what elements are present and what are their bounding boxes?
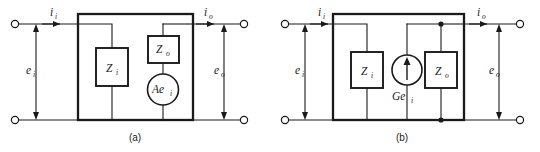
arrow-input-voltage-head-top: [33, 24, 39, 32]
arrow-input-current-head: [321, 21, 328, 27]
label-input-current: i: [50, 6, 53, 18]
label-input-current-sub: i: [55, 12, 57, 21]
junction-dot-top: [438, 21, 443, 26]
label-input-voltage-sub: i: [302, 70, 304, 79]
junction-dot-bottom: [438, 117, 443, 122]
wire-zi-top: [333, 24, 367, 52]
arrow-output-current-head: [480, 21, 487, 27]
label-output-current: i: [204, 6, 207, 18]
component-zi-label: Z: [361, 65, 368, 77]
arrow-output-voltage-head-bottom: [221, 112, 227, 120]
component-voltage-source-label: Ae: [151, 83, 164, 95]
label-output-voltage-sub: o: [496, 70, 500, 79]
panel-a: Z i Z o Ae i i i e i i o e o (a): [0, 0, 270, 152]
panel-b: Z i Z o Ge i i i e i i o e o (b): [270, 0, 540, 152]
component-voltage-source-sublabel: i: [170, 89, 172, 98]
arrow-output-voltage-head-top: [496, 24, 502, 32]
component-zi-sublabel: i: [116, 68, 118, 77]
label-output-current: i: [477, 6, 480, 18]
component-zi-sublabel: i: [371, 71, 373, 80]
arrow-input-voltage-head-top: [302, 24, 308, 32]
input-terminal-top: [11, 20, 18, 27]
label-output-voltage: e: [214, 64, 219, 76]
output-terminal-top: [516, 20, 523, 27]
circuit-figure: Z i Z o Ae i i i e i i o e o (a): [0, 0, 540, 152]
arrow-output-voltage-head-bottom: [496, 112, 502, 120]
label-input-current: i: [318, 6, 321, 18]
label-output-current-sub: o: [482, 12, 486, 21]
wire-zi-top: [78, 24, 112, 48]
component-current-source-label: Ge: [392, 90, 405, 102]
output-terminal-bottom: [240, 116, 247, 123]
arrow-output-voltage-head-top: [221, 24, 227, 32]
component-zo-box: [148, 36, 179, 63]
input-terminal-bottom: [281, 116, 288, 123]
label-output-voltage-sub: o: [221, 70, 225, 79]
input-terminal-top: [281, 20, 288, 27]
component-zo-label: Z: [435, 65, 442, 77]
label-output-current-sub: o: [209, 12, 213, 21]
output-terminal-top: [240, 20, 247, 27]
label-input-current-sub: i: [323, 12, 325, 21]
component-zi-label: Z: [106, 62, 113, 74]
component-zo-sublabel: o: [445, 71, 449, 80]
arrow-input-voltage-head-bottom: [33, 112, 39, 120]
arrow-output-current-head: [207, 21, 214, 27]
label-input-voltage: e: [295, 64, 300, 76]
panel-b-caption: (b): [396, 132, 408, 143]
component-zo-label: Z: [156, 43, 163, 55]
arrow-input-voltage-head-bottom: [302, 112, 308, 120]
label-output-voltage: e: [489, 64, 494, 76]
arrow-input-current-head: [53, 21, 60, 27]
component-zo-sublabel: o: [166, 49, 170, 58]
label-input-voltage: e: [26, 64, 31, 76]
output-terminal-bottom: [516, 116, 523, 123]
label-input-voltage-sub: i: [33, 70, 35, 79]
component-current-source-sublabel: i: [411, 96, 413, 105]
input-terminal-bottom: [11, 116, 18, 123]
panel-a-caption: (a): [129, 132, 141, 143]
